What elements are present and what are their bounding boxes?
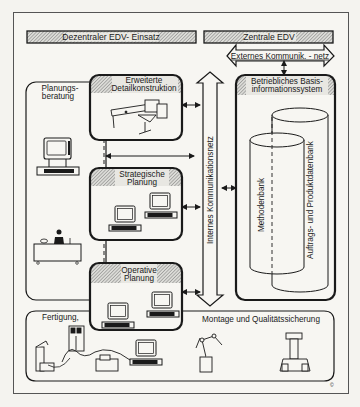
edv-architecture-diagram: Dezentraler EDV- Einsatz Zentrale EDV Ex… xyxy=(0,0,360,407)
basis-line2: informationssystem xyxy=(252,85,323,94)
box-strategische-planung: Strategische Planung xyxy=(90,168,182,240)
box-basisinformationssystem: Betriebliches Basis- informationssystem … xyxy=(236,75,335,300)
internal-network-label: Internes Kommunikationsnetz xyxy=(206,136,215,244)
planungsberatung-line2: beratung xyxy=(42,92,75,101)
operative-line2: Planung xyxy=(124,274,154,283)
header-zentral: Zentrale EDV xyxy=(204,31,333,43)
header-dezentral: Dezentraler EDV- Einsatz xyxy=(27,31,196,43)
methodenbank-label: Methodenbank xyxy=(257,177,266,232)
box-detailkonstruktion: Erweiterte Detailkonstruktion xyxy=(90,75,182,140)
control-cabinet-icon xyxy=(69,326,84,351)
produktdatenbank-label: Auftrags- und Produktdatenbank xyxy=(306,140,315,259)
external-network-label: Externes Kommunik. - netz xyxy=(231,52,329,61)
header-right-title: Zentrale EDV xyxy=(243,32,295,42)
strategische-line2: Planung xyxy=(127,178,157,187)
box-operative-planung: Operative Planung xyxy=(90,263,182,330)
database-cylinder-methoden: Methodenbank xyxy=(250,133,304,274)
corner-mark: © xyxy=(330,382,334,388)
montage-label: Montage und Qualitätssicherung xyxy=(202,315,320,324)
detail-line2: Detailkonstruktion xyxy=(111,84,177,93)
fertigung-label: Fertigung, xyxy=(42,313,79,322)
header-left-title: Dezentraler EDV- Einsatz xyxy=(62,32,159,42)
